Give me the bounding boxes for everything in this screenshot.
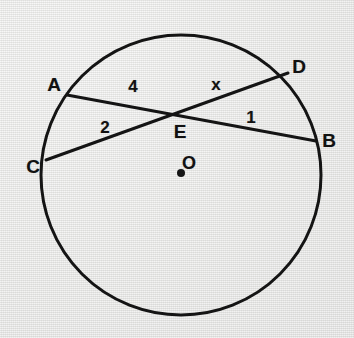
point-label-b: B: [322, 131, 336, 150]
geometry-figure: A D C B E O 4 x 2 1: [0, 0, 354, 338]
geometry-canvas: [0, 0, 354, 338]
measure-label-ce: 2: [100, 119, 109, 136]
measure-label-eb: 1: [246, 109, 255, 126]
point-label-a: A: [47, 75, 61, 94]
point-label-d: D: [292, 57, 306, 76]
measure-label-ae: 4: [128, 78, 137, 95]
measure-label-ed: x: [211, 76, 220, 93]
point-label-e: E: [174, 122, 187, 141]
point-label-o: O: [182, 154, 196, 172]
point-label-c: C: [26, 157, 40, 176]
